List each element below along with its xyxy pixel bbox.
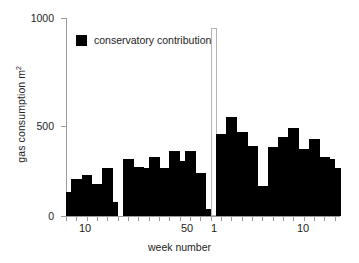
y-axis-title-text: gas consumption m	[15, 70, 27, 163]
y-tick-label-0: 0	[14, 210, 54, 222]
x-tick-mark	[231, 217, 232, 221]
x-tick-mark	[180, 217, 181, 221]
y-tick-label-1000: 1000	[14, 12, 54, 24]
x-tick-mark	[283, 217, 284, 221]
x-tick-mark	[66, 217, 67, 221]
x-tick-mark	[149, 217, 150, 221]
x-tick-mark	[87, 217, 88, 221]
x-tick-mark	[335, 217, 336, 221]
x-tick-mark	[118, 217, 119, 221]
x-tick-mark	[324, 217, 325, 221]
y-axis-title: gas consumption m2	[15, 29, 28, 199]
x-tick-mark	[262, 217, 263, 221]
bar	[335, 168, 341, 216]
y-axis-title-exponent: 2	[15, 66, 22, 70]
x-tick-mark	[76, 217, 77, 221]
x-tick-mark	[293, 217, 294, 221]
x-tick-mark	[211, 217, 212, 221]
x-tick-mark	[304, 217, 305, 221]
bar	[113, 202, 119, 216]
x-tick-mark	[169, 217, 170, 221]
x-tick-mark	[138, 217, 139, 221]
x-tick-mark	[190, 217, 191, 221]
chart-figure: gas consumption m2 1000 500 0 conservato…	[0, 0, 359, 263]
legend: conservatory contribution	[76, 34, 211, 46]
x-tick-mark	[97, 217, 98, 221]
bar-group	[66, 18, 340, 216]
y-tick-label-500: 500	[14, 120, 54, 132]
x-tick-label-50: 50	[181, 222, 193, 234]
legend-label: conservatory contribution	[94, 34, 211, 46]
x-tick-label-1: 1	[211, 222, 217, 234]
x-tick-mark	[159, 217, 160, 221]
legend-swatch-icon	[76, 35, 87, 46]
x-tick-label-10a: 10	[79, 222, 91, 234]
x-axis-title: week number	[0, 241, 359, 253]
x-tick-mark	[242, 217, 243, 221]
x-tick-label-10b: 10	[297, 222, 309, 234]
x-tick-mark	[252, 217, 253, 221]
x-tick-mark	[128, 217, 129, 221]
x-tick-mark	[200, 217, 201, 221]
plot-area	[66, 18, 340, 216]
x-tick-mark	[273, 217, 274, 221]
x-tick-mark	[107, 217, 108, 221]
x-tick-mark	[221, 217, 222, 221]
x-tick-mark	[314, 217, 315, 221]
